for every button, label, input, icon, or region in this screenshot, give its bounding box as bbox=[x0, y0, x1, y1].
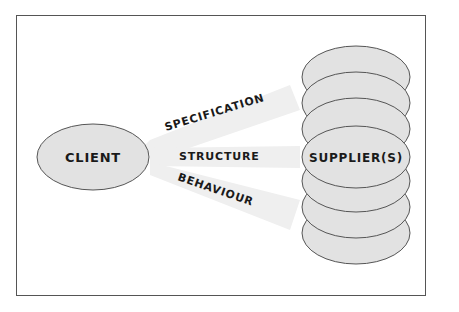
link-label-structure: STRUCTURE bbox=[179, 150, 260, 163]
supplier-label: SUPPLIER(S) bbox=[309, 151, 403, 165]
client-label: CLIENT bbox=[65, 150, 121, 165]
diagram-canvas: CLIENT SUPPLIER(S) SPECIFICATION STRUCTU… bbox=[0, 0, 459, 312]
